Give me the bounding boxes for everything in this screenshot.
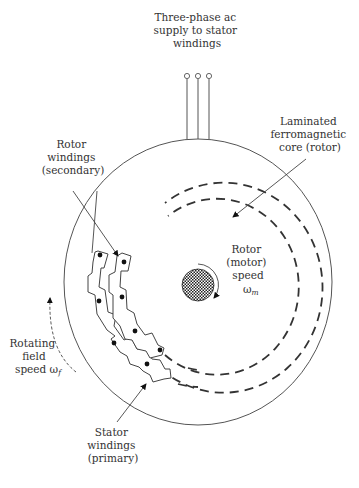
winding-slots (88, 251, 171, 382)
conductor (145, 362, 150, 367)
rotor-windings-leader-line (92, 191, 97, 253)
stator-windings-leader-arrow (117, 384, 146, 422)
core-label: Laminated ferromagnetic core (rotor) (270, 115, 349, 153)
rotor-speed-label: Rotor (motor) speed (226, 243, 269, 281)
terminal-2 (195, 73, 200, 78)
conductor (122, 260, 127, 265)
rotating-field-arrow-icon (50, 298, 76, 372)
rotor-windings-label: Rotor windings (secondary) (42, 138, 105, 176)
rotor-speed-symbol: ωm (243, 283, 259, 297)
terminal-1 (184, 73, 189, 78)
rotating-field-label: Rotating field (9, 337, 58, 362)
supply-terminals (184, 73, 211, 139)
conductor (158, 348, 163, 353)
conductor (97, 299, 102, 304)
rotor-windings-leader-arrow (73, 191, 118, 256)
conductor (120, 295, 125, 300)
rotor-core (182, 269, 214, 301)
supply-label: Three-phase ac supply to stator windings (154, 11, 241, 49)
inner-dashed-bottom (188, 368, 198, 370)
terminal-3 (206, 73, 211, 78)
core-leader-arrow (233, 159, 306, 217)
field-speed-label: speed ωf (15, 363, 62, 377)
conductor (112, 341, 117, 346)
induction-motor-diagram: Three-phase ac supply to stator windings… (0, 0, 359, 488)
conductor (98, 253, 103, 258)
stator-windings-label: Stator windings (primary) (87, 426, 138, 464)
conductor (133, 329, 138, 334)
